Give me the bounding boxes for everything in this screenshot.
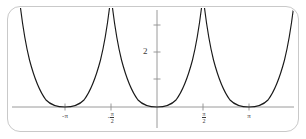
fraction-denominator: 2 (202, 118, 206, 124)
x-tick-label-neg-pi-symbol: π (64, 113, 68, 120)
fraction-denominator: 2 (110, 118, 114, 124)
plot-area (0, 0, 306, 139)
curve-branch-left (21, 8, 110, 107)
x-tick-label-neg-pi: -π (55, 113, 75, 120)
y-tick-label-2: 2 (143, 47, 148, 56)
curve-branch-right (205, 8, 294, 107)
fraction-numerator: π (202, 111, 206, 118)
x-tick-label-neg-pi-over-2-fraction: π 2 (110, 111, 114, 125)
x-tick-label-pi: π (239, 113, 259, 120)
x-tick-label-pi-over-2-fraction: π 2 (202, 111, 206, 125)
chart-figure: 2 -π - π 2 π 2 π (0, 0, 306, 139)
x-tick-label-neg-pi-over-2: - π 2 (101, 111, 121, 125)
x-tick-label-pi-symbol: π (247, 113, 251, 120)
fraction-numerator: π (110, 111, 114, 118)
x-tick-label-pi-over-2: π 2 (194, 111, 214, 125)
